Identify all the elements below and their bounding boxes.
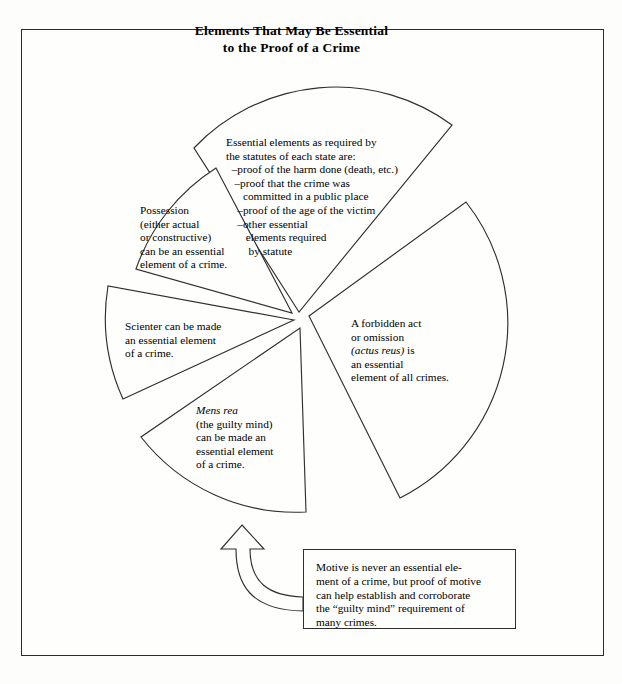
wedge-label-scienter: Scienter can be made an essential elemen… xyxy=(125,320,221,361)
mens-rea-term: Mens rea xyxy=(196,404,238,416)
actus-reus-line-4: an essential xyxy=(351,358,403,370)
possession-line-1: Possession xyxy=(140,204,189,216)
wedge-label-actus-reus: A forbidden act or omission (actus reus)… xyxy=(351,317,449,385)
actus-reus-term: (actus reus) xyxy=(351,344,404,356)
statutes-line-2: the statutes of each state are: xyxy=(226,150,356,162)
statutes-line-1: Essential elements as required by xyxy=(226,136,377,148)
wedge-label-statutes: Essential elements as required by the st… xyxy=(226,136,398,258)
mens-rea-line-4: essential element xyxy=(196,445,273,457)
motive-line-3: can help establish and corroborate xyxy=(316,589,470,601)
figure-title-line-2: to the Proof of a Crime xyxy=(0,39,583,56)
mens-rea-line-3: can be made an xyxy=(196,431,266,443)
possession-line-4: can be an essential xyxy=(140,245,224,257)
motive-line-2: ment of a crime, but proof of motive xyxy=(316,575,481,587)
actus-reus-line-5: element of all crimes. xyxy=(351,371,449,383)
wedge-label-possession: Possession (either actual or constructiv… xyxy=(140,204,227,272)
actus-reus-line-3-rest: is xyxy=(404,344,414,356)
figure-title: Elements That May Be Essential to the Pr… xyxy=(0,22,583,56)
figure-title-line-1: Elements That May Be Essential xyxy=(195,23,388,38)
statutes-line-7: –other essential xyxy=(226,218,308,230)
statutes-line-3: –proof of the harm done (death, etc.) xyxy=(226,163,398,175)
possession-line-2: (either actual xyxy=(140,218,199,230)
motive-callout-text: Motive is never an essential ele- ment o… xyxy=(316,561,512,630)
statutes-line-8: elements required xyxy=(226,231,326,243)
actus-reus-line-2: or omission xyxy=(351,331,404,343)
scienter-line-1: Scienter can be made xyxy=(125,320,221,332)
mens-rea-line-2: (the guilty mind) xyxy=(196,418,273,430)
wedge-label-mens-rea: Mens rea (the guilty mind) can be made a… xyxy=(196,404,273,472)
scienter-line-2: an essential element xyxy=(125,334,216,346)
possession-line-5: element of a crime. xyxy=(140,258,227,270)
mens-rea-line-5: of a crime. xyxy=(196,458,245,470)
scienter-line-3: of a crime. xyxy=(125,347,174,359)
statutes-line-4: –proof that the crime was xyxy=(226,177,350,189)
motive-line-4: the “guilty mind” requirement of xyxy=(316,602,465,614)
motive-line-1: Motive is never an essential ele- xyxy=(316,561,462,573)
actus-reus-line-1: A forbidden act xyxy=(351,317,421,329)
possession-line-3: or constructive) xyxy=(140,231,211,243)
figure-page: Elements That May Be Essential to the Pr… xyxy=(0,0,622,684)
statutes-line-6: –proof of the age of the victim xyxy=(226,204,375,216)
motive-line-5: many crimes. xyxy=(316,616,377,628)
statutes-line-5: committed in a public place xyxy=(226,190,368,202)
statutes-line-9: by statute xyxy=(226,245,292,257)
